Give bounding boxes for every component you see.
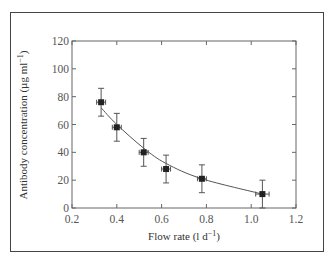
data-point xyxy=(256,180,269,208)
data-point xyxy=(197,165,206,193)
x-tick-label: 1.0 xyxy=(244,213,259,225)
data-point xyxy=(139,138,148,166)
x-tick-label: 1.2 xyxy=(289,213,304,225)
y-tick-label: 60 xyxy=(58,119,70,131)
y-tick-label: 40 xyxy=(58,146,70,158)
square-marker xyxy=(199,176,205,182)
y-tick-label: 80 xyxy=(58,91,70,103)
y-tick-label: 20 xyxy=(58,174,70,186)
y-axis-label: Antibody concentration (µg ml−1) xyxy=(16,50,30,199)
x-axis-label: Flow rate (l d−1) xyxy=(148,229,220,243)
data-point xyxy=(112,113,121,141)
chart: 0.20.40.60.81.01.2020406080100120 Flow r… xyxy=(0,0,334,270)
square-marker xyxy=(259,191,265,197)
y-tick-label: 120 xyxy=(52,35,70,47)
square-marker xyxy=(98,99,104,105)
data-points xyxy=(97,88,269,208)
x-tick-label: 0.2 xyxy=(65,213,80,225)
fit-curve xyxy=(101,108,262,194)
x-tick-label: 0.6 xyxy=(154,213,169,225)
data-point xyxy=(162,155,171,183)
square-marker xyxy=(141,149,147,155)
y-tick-label: 100 xyxy=(52,63,70,75)
x-tick-label: 0.8 xyxy=(199,213,214,225)
square-marker xyxy=(163,166,169,172)
y-tick-label: 0 xyxy=(63,202,69,214)
fit-line xyxy=(101,108,262,194)
square-marker xyxy=(114,124,120,130)
x-tick-label: 0.4 xyxy=(110,213,125,225)
axis-ticks: 0.20.40.60.81.01.2020406080100120 xyxy=(52,35,304,225)
